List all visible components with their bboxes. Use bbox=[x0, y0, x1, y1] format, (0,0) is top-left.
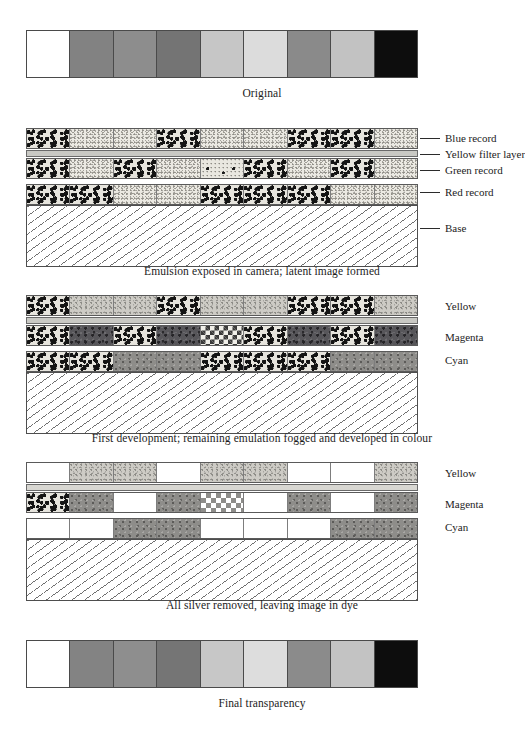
layer-yellow bbox=[26, 462, 418, 483]
layer-cell-green-record-2 bbox=[70, 159, 113, 178]
layer-cell-yellow-layer-6 bbox=[244, 463, 287, 482]
layer-cell-magenta-layer-5 bbox=[201, 493, 244, 512]
layer-cell-cyan-layer-9 bbox=[375, 519, 417, 538]
layer-yellow-filter bbox=[26, 150, 418, 157]
layer-cell-green-record-7 bbox=[288, 159, 331, 178]
final-tone-strip bbox=[26, 640, 418, 688]
layer-cell-yellow-layer-4 bbox=[157, 296, 200, 315]
tone-cell-pale-grey bbox=[244, 641, 287, 687]
caption-final: Final transparency bbox=[0, 697, 524, 709]
layer-cell-cyan-layer-4 bbox=[157, 519, 200, 538]
layer-cell-green-record-9 bbox=[375, 159, 417, 178]
layer-cell-cyan-layer-5 bbox=[201, 519, 244, 538]
caption-latent: Emulsion exposed in camera; latent image… bbox=[0, 265, 524, 277]
layer-cell-blue-record-7 bbox=[288, 129, 331, 148]
tone-cell-pale-grey bbox=[244, 31, 287, 77]
layer-cell-magenta-layer-8 bbox=[331, 493, 374, 512]
tone-cell-mid-grey bbox=[70, 31, 113, 77]
label-magenta: Magenta bbox=[445, 499, 483, 510]
layer-cyan bbox=[26, 518, 418, 539]
layer-cell-yellow-layer-4 bbox=[157, 463, 200, 482]
label-yellow: Yellow bbox=[445, 468, 476, 479]
film-base bbox=[26, 539, 418, 601]
tone-cell-mid-grey-3 bbox=[288, 31, 331, 77]
layer-cell-yellow-layer-2 bbox=[70, 296, 113, 315]
layer-blue-record bbox=[26, 128, 418, 149]
layer-cell-magenta-layer-9 bbox=[375, 326, 417, 345]
layer-cell-yellow-layer-7 bbox=[288, 296, 331, 315]
layer-cell-green-record-1 bbox=[27, 159, 70, 178]
leader-green-record bbox=[420, 170, 440, 171]
layer-cell-green-record-5 bbox=[201, 159, 244, 178]
layer-cell-green-record-6 bbox=[244, 159, 287, 178]
layer-red-record bbox=[26, 184, 418, 205]
layer-cell-red-record-9 bbox=[375, 185, 417, 204]
layer-cell-yellow-layer-3 bbox=[114, 463, 157, 482]
layer-cell-magenta-layer-1 bbox=[27, 493, 70, 512]
layer-cell-cyan-layer-7 bbox=[288, 519, 331, 538]
layer-cell-blue-record-2 bbox=[70, 129, 113, 148]
layer-cell-red-record-7 bbox=[288, 185, 331, 204]
layer-cell-cyan-layer-5 bbox=[201, 352, 244, 371]
layer-cell-magenta-layer-6 bbox=[244, 493, 287, 512]
tone-cell-black bbox=[375, 31, 417, 77]
layer-cell-cyan-layer-6 bbox=[244, 519, 287, 538]
film-base bbox=[26, 372, 418, 434]
layer-cell-green-record-4 bbox=[157, 159, 200, 178]
tone-cell-dark-grey bbox=[157, 641, 200, 687]
tone-cell-light-grey bbox=[201, 641, 244, 687]
base-hatch-pattern bbox=[26, 540, 418, 600]
layer-yellow bbox=[26, 295, 418, 316]
tone-cell-mid-grey-2 bbox=[114, 641, 157, 687]
tone-cell-dark-grey bbox=[157, 31, 200, 77]
caption-original: Original bbox=[0, 87, 524, 99]
first-development-layer-stack bbox=[26, 295, 418, 434]
layer-cell-magenta-layer-4 bbox=[157, 326, 200, 345]
layer-cell-cyan-layer-6 bbox=[244, 352, 287, 371]
label-cyan: Cyan bbox=[445, 522, 468, 533]
layer-cell-blue-record-1 bbox=[27, 129, 70, 148]
layer-cell-cyan-layer-8 bbox=[331, 519, 374, 538]
layer-cell-cyan-layer-3 bbox=[114, 352, 157, 371]
layer-cell-magenta-layer-4 bbox=[157, 493, 200, 512]
layer-cell-green-record-3 bbox=[114, 159, 157, 178]
tone-cell-mid-grey-3 bbox=[288, 641, 331, 687]
layer-cell-cyan-layer-4 bbox=[157, 352, 200, 371]
layer-cell-cyan-layer-1 bbox=[27, 519, 70, 538]
label-magenta: Magenta bbox=[445, 332, 483, 343]
layer-cell-blue-record-9 bbox=[375, 129, 417, 148]
tone-cell-mid-grey bbox=[70, 641, 113, 687]
layer-cell-magenta-layer-2 bbox=[70, 326, 113, 345]
layer-magenta bbox=[26, 325, 418, 346]
layer-cell-yellow-layer-3 bbox=[114, 296, 157, 315]
layer-cell-red-record-3 bbox=[114, 185, 157, 204]
layer-cell-magenta-layer-8 bbox=[331, 326, 374, 345]
tone-cell-white bbox=[27, 31, 70, 77]
label-cyan: Cyan bbox=[445, 355, 468, 366]
layer-yellow-filter bbox=[26, 317, 418, 324]
tone-cell-white bbox=[27, 641, 70, 687]
layer-cell-cyan-layer-7 bbox=[288, 352, 331, 371]
tone-cell-light-grey-2 bbox=[331, 31, 374, 77]
layer-cell-cyan-layer-3 bbox=[114, 519, 157, 538]
layer-cell-magenta-layer-3 bbox=[114, 326, 157, 345]
tone-cell-mid-grey-2 bbox=[114, 31, 157, 77]
layer-magenta bbox=[26, 492, 418, 513]
label-base: Base bbox=[445, 223, 466, 234]
layer-cell-yellow-layer-5 bbox=[201, 296, 244, 315]
layer-cell-magenta-layer-2 bbox=[70, 493, 113, 512]
layer-cell-cyan-layer-9 bbox=[375, 352, 417, 371]
film-base bbox=[26, 205, 418, 267]
layer-cell-red-record-6 bbox=[244, 185, 287, 204]
tone-cell-light-grey bbox=[201, 31, 244, 77]
layer-cyan bbox=[26, 351, 418, 372]
base-hatch-pattern bbox=[26, 373, 418, 433]
original-tone-strip bbox=[26, 30, 418, 78]
layer-cell-magenta-layer-1 bbox=[27, 326, 70, 345]
layer-cell-yellow-layer-7 bbox=[288, 463, 331, 482]
layer-cell-yellow-layer-6 bbox=[244, 296, 287, 315]
layer-cell-cyan-layer-2 bbox=[70, 352, 113, 371]
layer-cell-yellow-layer-8 bbox=[331, 296, 374, 315]
layer-cell-blue-record-5 bbox=[201, 129, 244, 148]
